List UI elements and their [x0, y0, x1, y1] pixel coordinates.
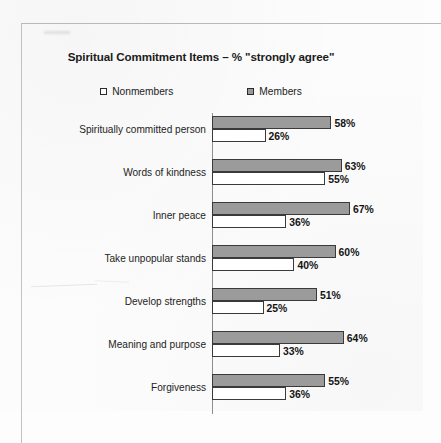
- chart-legend: Nonmembers Members: [21, 86, 381, 97]
- bar-value-label: 51%: [320, 289, 341, 300]
- bar-pair: 58%26%: [212, 116, 331, 142]
- bar-value-label: 55%: [328, 173, 349, 184]
- bar-group: Inner peace67%36%: [0, 199, 423, 242]
- category-label: Forgiveness: [151, 382, 211, 393]
- bar-members[interactable]: 58%: [212, 116, 331, 129]
- bar-pair: 63%55%: [212, 159, 342, 185]
- bar-group: Meaning and purpose64%33%: [0, 328, 423, 371]
- bar-members[interactable]: 67%: [212, 202, 350, 215]
- legend-label-members: Members: [259, 86, 301, 97]
- bar-value-label: 55%: [328, 375, 349, 386]
- bar-nonmembers[interactable]: 36%: [212, 215, 286, 228]
- bar-nonmembers[interactable]: 40%: [212, 258, 294, 271]
- bar-pair: 67%36%: [212, 202, 350, 228]
- bar-nonmembers[interactable]: 26%: [212, 129, 266, 142]
- bar-group: Forgiveness55%36%: [0, 371, 423, 414]
- chart-title: Spiritual Commitment Items – % "strongly…: [21, 50, 381, 63]
- bar-value-label: 26%: [269, 130, 290, 141]
- bar-members[interactable]: 55%: [212, 374, 325, 387]
- bar-value-label: 36%: [289, 388, 310, 399]
- bar-value-label: 40%: [297, 259, 318, 270]
- category-label: Spiritually committed person: [79, 124, 211, 135]
- bar-nonmembers[interactable]: 33%: [212, 344, 280, 357]
- legend-label-nonmembers: Nonmembers: [112, 86, 173, 97]
- bar-nonmembers[interactable]: 55%: [212, 172, 325, 185]
- filled-square-icon: [247, 88, 254, 95]
- category-label: Words of kindness: [123, 167, 211, 178]
- category-label: Develop strengths: [125, 296, 211, 307]
- bar-group: Take unpopular stands60%40%: [0, 242, 423, 285]
- bar-value-label: 36%: [289, 216, 310, 227]
- bar-chart-plot-area: Spiritually committed person58%26%Words …: [0, 113, 423, 414]
- bar-value-label: 63%: [345, 160, 366, 171]
- bar-value-label: 64%: [347, 332, 368, 343]
- bar-group: Develop strengths51%25%: [0, 285, 423, 328]
- bar-pair: 64%33%: [212, 331, 344, 357]
- category-label: Meaning and purpose: [108, 339, 211, 350]
- bar-group: Spiritually committed person58%26%: [0, 113, 423, 156]
- hollow-square-icon: [100, 88, 107, 95]
- bar-value-label: 25%: [267, 302, 288, 313]
- legend-item-nonmembers[interactable]: Nonmembers: [100, 86, 173, 97]
- bar-members[interactable]: 51%: [212, 288, 317, 301]
- bar-members[interactable]: 63%: [212, 159, 342, 172]
- bar-pair: 60%40%: [212, 245, 336, 271]
- bar-value-label: 33%: [283, 345, 304, 356]
- bar-group: Words of kindness63%55%: [0, 156, 423, 199]
- bar-members[interactable]: 64%: [212, 331, 344, 344]
- bar-members[interactable]: 60%: [212, 245, 336, 258]
- category-label: Inner peace: [153, 210, 211, 221]
- bar-nonmembers[interactable]: 36%: [212, 387, 286, 400]
- bar-value-label: 58%: [334, 117, 355, 128]
- bar-value-label: 60%: [339, 246, 360, 257]
- bar-pair: 55%36%: [212, 374, 325, 400]
- bar-value-label: 67%: [353, 203, 374, 214]
- legend-item-members[interactable]: Members: [247, 86, 301, 97]
- bar-pair: 51%25%: [212, 288, 317, 314]
- bar-nonmembers[interactable]: 25%: [212, 301, 264, 314]
- category-label: Take unpopular stands: [104, 253, 211, 264]
